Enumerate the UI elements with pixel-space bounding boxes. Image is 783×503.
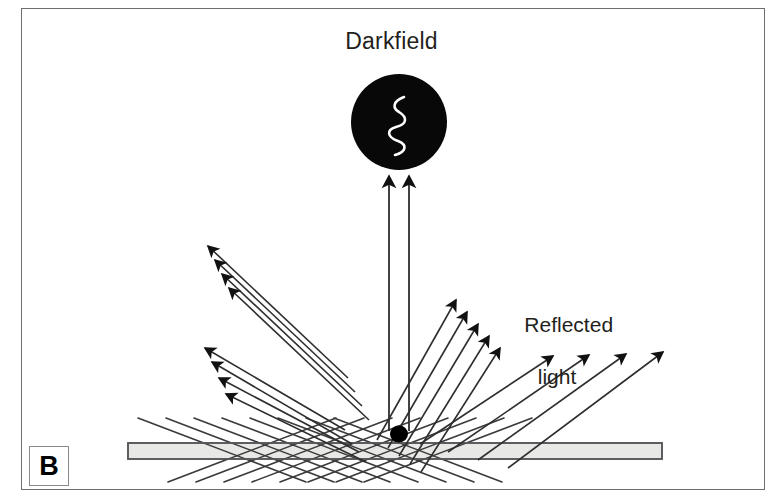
reflected-ray-steep-right xyxy=(399,324,478,456)
collected-scattered-rays xyxy=(389,176,409,431)
reflected-ray-upper-left xyxy=(229,288,369,420)
reflected-light-line-1: Reflected xyxy=(524,313,613,336)
reflected-ray-lower-left xyxy=(219,378,359,452)
reflected-ray-upper-left xyxy=(215,260,355,392)
darkfield-illumination-diagram xyxy=(0,0,783,503)
reflected-light-line-2: light xyxy=(501,364,613,390)
reflected-ray-upper-left xyxy=(222,274,362,406)
page-title: Darkfield xyxy=(0,28,783,55)
darkfield-figure: Darkfield Reflected light B xyxy=(0,0,783,503)
panel-label: B xyxy=(39,453,59,480)
specimen-dot xyxy=(390,426,408,443)
reflected-light-annotation: Reflected light xyxy=(501,286,613,442)
reflected-ray-lower-left xyxy=(212,362,352,444)
reflected-ray-upper-left xyxy=(208,246,348,378)
panel-label-box: B xyxy=(29,446,69,486)
darkfield-objective-icon xyxy=(351,74,447,170)
